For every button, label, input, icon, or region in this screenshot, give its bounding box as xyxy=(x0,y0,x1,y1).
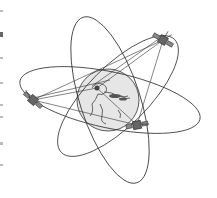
satellite-left-icon xyxy=(21,89,44,110)
orbit-diagram xyxy=(0,0,217,198)
edge-text-fragment xyxy=(0,82,3,84)
edge-text-fragment xyxy=(0,57,3,59)
edge-text-fragment xyxy=(0,32,3,37)
satellite-orbit-illustration xyxy=(0,0,217,198)
edge-text-fragment xyxy=(0,142,3,145)
edge-text-fragment xyxy=(0,116,3,118)
edge-text-fragment xyxy=(0,10,3,12)
ground-station-icon xyxy=(95,86,100,91)
edge-text-fragment xyxy=(0,104,3,106)
edge-text-fragment xyxy=(0,164,3,166)
globe-icon xyxy=(77,69,139,131)
